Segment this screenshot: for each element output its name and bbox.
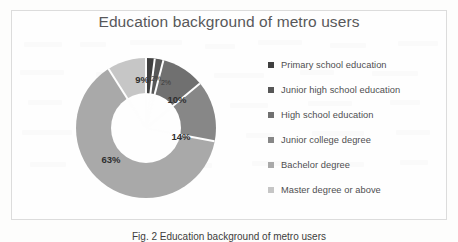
legend-item-label: Primary school education <box>281 60 387 70</box>
slice-label: 10% <box>167 94 186 105</box>
legend-item[interactable]: Bachelor degree <box>268 152 440 177</box>
legend-item[interactable]: Junior high school education <box>268 77 440 102</box>
legend-item-label: Master degree or above <box>281 185 381 195</box>
legend-marker-square-icon <box>268 162 274 168</box>
legend-item-label: High school education <box>281 110 374 120</box>
legend-item[interactable]: Master degree or above <box>268 177 440 202</box>
legend-marker-square-icon <box>268 137 274 143</box>
slice-label: 63% <box>101 154 120 165</box>
slice-label: 2% <box>151 75 161 82</box>
legend-item[interactable]: High school education <box>268 102 440 127</box>
slice-label: 2% <box>161 79 171 86</box>
legend-item[interactable]: Primary school education <box>268 52 440 77</box>
legend-item-label: Junior high school education <box>281 85 400 95</box>
legend-marker-square-icon <box>268 62 274 68</box>
slice-label: 14% <box>171 131 190 142</box>
legend-item-label: Junior college degree <box>281 135 371 145</box>
chart-legend: Primary school educationJunior high scho… <box>268 52 440 202</box>
legend-marker-square-icon <box>268 112 274 118</box>
legend-item-label: Bachelor degree <box>281 160 350 170</box>
slice-label: 9% <box>135 74 149 85</box>
legend-marker-square-icon <box>268 87 274 93</box>
doughnut-chart: 2%2%10%14%63%9% <box>76 58 216 198</box>
legend-item[interactable]: Junior college degree <box>268 127 440 152</box>
legend-marker-square-icon <box>268 187 274 193</box>
figure-caption: Fig. 2 Education background of metro use… <box>0 231 458 242</box>
chart-title: Education background of metro users <box>0 13 458 31</box>
